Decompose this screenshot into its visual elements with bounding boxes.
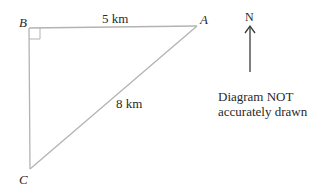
vertex-label-c: C [19, 173, 28, 185]
north-label: N [245, 11, 254, 23]
vertex-label-a: A [200, 13, 208, 26]
edge-bc [29, 28, 30, 169]
accuracy-note-line-1: Diagram NOT [218, 89, 307, 104]
vertex-label-b: B [19, 16, 27, 29]
edge-label-ba: 5 km [102, 12, 128, 25]
accuracy-note: Diagram NOT accurately drawn [218, 89, 307, 119]
edge-label-ac: 8 km [116, 97, 142, 110]
right-angle-marker [29, 28, 40, 39]
accuracy-note-line-2: accurately drawn [218, 104, 307, 119]
edge-ac [30, 26, 197, 169]
edge-ba [29, 26, 197, 28]
